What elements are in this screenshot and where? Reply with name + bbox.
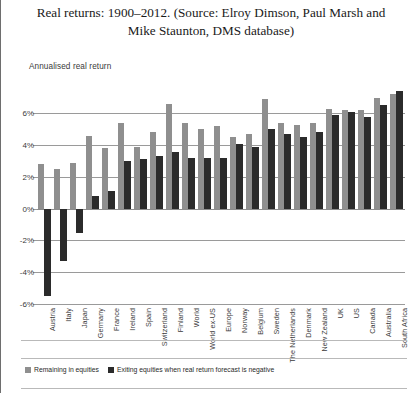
x-tick-label: Sweden [272,308,281,335]
bar-exiting [332,115,338,209]
bar-remaining [358,110,364,208]
x-tick-label: Germany [96,308,105,338]
bar-exiting [44,209,50,296]
bar-group [181,88,197,304]
x-label-wrap: Sweden [272,308,282,362]
bar-group [261,88,277,304]
x-tick-label: Finland [176,308,185,332]
bar-group [277,88,293,304]
y-tick-label: 2% [22,172,34,181]
bar-group [213,88,229,304]
x-label-wrap: Canada [368,308,378,362]
x-label-wrap: Spain [144,308,154,362]
bar-group [53,88,69,304]
bar-exiting [236,144,242,209]
legend: Remaining in equities Exiting equities w… [25,366,274,373]
bar-remaining [70,163,76,209]
square-swatch-dark-icon [108,367,114,373]
x-tick-label: New Zealand [320,308,329,351]
bar-exiting [348,112,354,209]
y-tick-label: -6% [20,300,34,309]
bar-remaining [150,132,156,208]
x-label-wrap: Italy [64,308,74,362]
bar-series-container [37,88,405,304]
x-tick-label: Austria [48,308,57,331]
bar-exiting [204,158,210,209]
bar-remaining [38,164,44,208]
bar-exiting [316,132,322,208]
bar-remaining [262,99,268,209]
x-tick-label: Spain [144,308,153,327]
x-tick-label: World [192,308,201,327]
x-label-wrap: World ex-US [208,308,218,362]
bar-exiting [172,152,178,209]
x-label-wrap: US [352,308,362,362]
bar-group [149,88,165,304]
bar-remaining [134,147,140,209]
bar-group [85,88,101,304]
y-axis-title: Annualised real return [29,62,111,71]
bar-exiting [252,147,258,209]
bar-exiting [156,156,162,208]
page-rule-bottom [21,388,407,389]
legend-label-exiting: Exiting equities when real return foreca… [117,366,274,373]
bar-remaining [390,94,396,208]
x-tick-label: Belgium [256,308,265,335]
bar-remaining [246,134,252,209]
x-tick-label: France [112,308,121,331]
bar-group [245,88,261,304]
bar-group [165,88,181,304]
bar-exiting [380,105,386,208]
bar-group [101,88,117,304]
bar-remaining [310,123,316,209]
bar-exiting [108,191,114,208]
bar-exiting [268,129,274,208]
bar-exiting [124,161,130,209]
x-tick-label: Norway [240,308,249,333]
bar-remaining [326,109,332,209]
legend-item-remaining: Remaining in equities [25,366,99,373]
bar-remaining [182,123,188,209]
x-label-wrap: Norway [240,308,250,362]
x-label-wrap: France [112,308,122,362]
bar-group [229,88,245,304]
bar-remaining [198,129,204,208]
legend-item-exiting: Exiting equities when real return foreca… [108,366,274,373]
bar-remaining [118,123,124,209]
bar-exiting [188,158,194,209]
gridline-neg6 [37,304,405,305]
page-rule-upper [21,340,407,341]
bar-remaining [214,126,220,209]
bar-group [309,88,325,304]
x-tick-label: The Netherlands [288,308,297,363]
x-label-wrap: World [192,308,202,362]
x-label-wrap: New Zealand [320,308,330,362]
bar-remaining [294,125,300,209]
x-label-wrap: Europe [224,308,234,362]
x-tick-label: Canada [368,308,377,334]
bar-exiting [364,117,370,209]
x-tick-label: Japan [80,308,89,328]
bar-exiting [60,209,66,261]
y-tick-label: -4% [20,268,34,277]
x-tick-label: UK [336,308,345,318]
figure-page: Real returns: 1900–2012. (Source: Elroy … [0,0,410,393]
x-label-wrap: Australia [384,308,394,362]
bar-group [37,88,53,304]
x-label-wrap: Belgium [256,308,266,362]
bar-exiting [140,159,146,208]
x-label-wrap: Austria [48,308,58,362]
bar-remaining [166,104,172,209]
bar-group [117,88,133,304]
bar-group [197,88,213,304]
x-label-wrap: Japan [80,308,90,362]
bar-remaining [342,110,348,208]
x-tick-label: World ex-US [208,308,217,350]
x-label-wrap: Switzerland [160,308,170,362]
bar-remaining [54,169,60,209]
x-axis-labels: AustriaItalyJapanGermanyFranceIrelandSpa… [37,306,405,362]
y-tick-label: 4% [22,141,34,150]
bar-exiting [76,209,82,233]
y-tick-label: -2% [20,236,34,245]
x-label-wrap: Germany [96,308,106,362]
